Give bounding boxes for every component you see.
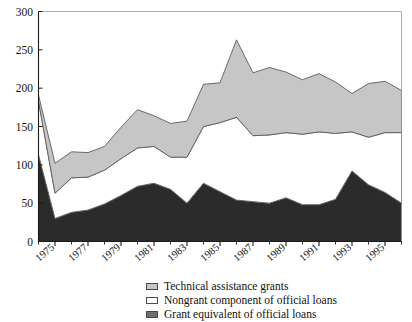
y-axis-tick-label: 0: [27, 236, 33, 248]
legend-label-grant-equivalent: Grant equivalent of official loans: [164, 308, 316, 321]
chart-plot-area: 0501001502002503001975197719791981198319…: [0, 0, 412, 322]
legend-label-nongrant-component: Nongrant component of official loans: [164, 294, 337, 307]
y-axis-tick-label: 250: [16, 44, 34, 56]
legend-label-technical-assistance-grants: Technical assistance grants: [164, 280, 288, 293]
y-axis-tick-label: 50: [22, 197, 34, 209]
x-axis-tick-label: 1993: [330, 242, 353, 264]
x-axis-tick-label: 1975: [33, 242, 56, 264]
chart-legend: Technical assistance grants Nongrant com…: [146, 280, 396, 322]
y-axis-tick-label: 300: [16, 6, 34, 18]
stacked-area-chart: 0501001502002503001975197719791981198319…: [0, 0, 412, 322]
x-axis-tick-label: 1979: [99, 242, 122, 264]
legend-swatch-technical-assistance-grants: [146, 283, 158, 290]
x-axis-tick-label: 1981: [132, 242, 155, 264]
legend-swatch-grant-equivalent: [146, 311, 158, 318]
y-axis-tick-label: 200: [16, 82, 34, 94]
x-axis-tick-label: 1983: [165, 242, 188, 264]
x-axis-tick-label: 1991: [297, 242, 320, 264]
x-axis-tick-label: 1995: [363, 242, 386, 264]
y-axis-tick-label: 150: [16, 121, 34, 133]
x-axis-tick-label: 1985: [198, 242, 221, 264]
x-axis-tick-label: 1977: [66, 242, 89, 264]
y-axis-tick-label: 100: [16, 159, 34, 171]
legend-item-grant-equivalent: Grant equivalent of official loans: [146, 308, 396, 321]
legend-item-technical-assistance-grants: Technical assistance grants: [146, 280, 396, 293]
legend-swatch-nongrant-component: [146, 297, 158, 304]
x-axis-tick-label: 1989: [264, 242, 287, 264]
x-axis-tick-label: 1987: [231, 242, 254, 264]
legend-item-nongrant-component: Nongrant component of official loans: [146, 294, 396, 307]
